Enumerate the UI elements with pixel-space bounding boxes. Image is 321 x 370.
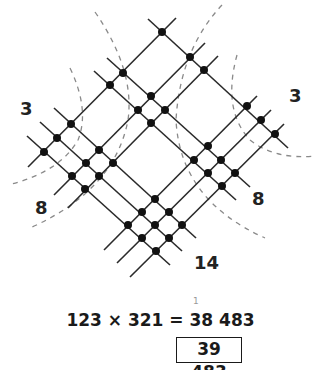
line-down-3	[94, 71, 236, 200]
intersection-dot	[271, 130, 279, 138]
label-left-bottom: 8	[35, 197, 48, 218]
dashed-grouping-arcs	[8, 5, 315, 238]
intersection-dot	[200, 66, 208, 74]
intersection-dot	[95, 172, 103, 180]
intersection-dot	[95, 146, 103, 154]
intersection-dot	[124, 221, 132, 229]
label-right-top: 3	[289, 85, 302, 106]
intersection-dot	[109, 159, 117, 167]
intersection-dot	[68, 172, 76, 180]
intersection-dot	[204, 169, 212, 177]
intersection-dot	[134, 106, 142, 114]
intersection-dot	[178, 221, 186, 229]
intersection-dot	[147, 119, 155, 127]
intersection-dot	[67, 120, 75, 128]
intersection-dot	[152, 247, 160, 255]
intersection-dot	[53, 134, 61, 142]
intersection-dot	[217, 156, 225, 164]
line-down-5	[40, 122, 182, 251]
label-right-middle: 8	[252, 188, 265, 209]
line-down-2	[107, 58, 250, 187]
intersection-dot	[204, 142, 212, 150]
intersection-dot	[151, 221, 159, 229]
intersection-dot	[158, 28, 166, 36]
answer-box: 39 483	[176, 337, 242, 363]
label-left-top: 3	[20, 98, 33, 119]
intersection-dot	[190, 156, 198, 164]
intersection-dot	[161, 106, 169, 114]
intersection-dot	[147, 92, 155, 100]
multiplicand-lines	[28, 18, 284, 277]
intersection-dot	[106, 81, 114, 89]
intersection-dot	[82, 159, 90, 167]
intersection-dot	[165, 208, 173, 216]
intersection-dot	[119, 69, 127, 77]
intersection-dot	[257, 116, 265, 124]
intersection-dot	[151, 195, 159, 203]
intersection-dot	[40, 148, 48, 156]
line-down-1	[148, 19, 288, 148]
intersection-dot	[138, 208, 146, 216]
intersection-dot	[165, 234, 173, 242]
intersection-dot	[81, 185, 89, 193]
intersection-dot	[231, 169, 239, 177]
intersection-dot	[243, 102, 251, 110]
intersection-dot	[138, 234, 146, 242]
equation-text: 123 × 321 = 38 483	[0, 310, 321, 330]
line-down-6	[27, 136, 170, 265]
intersection-dot	[218, 182, 226, 190]
intersection-dot	[186, 53, 194, 61]
label-bottom: 14	[194, 252, 219, 273]
carry-digit: 1	[193, 296, 199, 306]
line-up-1	[28, 18, 176, 167]
